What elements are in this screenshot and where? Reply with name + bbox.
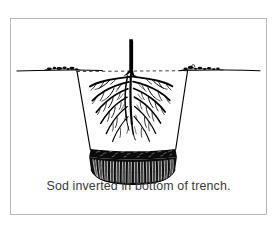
figure-root: Sod inverted in bottom of trench. [0, 0, 277, 228]
surface-clumps-left [45, 66, 81, 70]
ground-line-right [180, 70, 260, 71]
trench-walls [77, 70, 188, 149]
figure-frame: Sod inverted in bottom of trench. [10, 18, 267, 215]
figure-caption: Sod inverted in bottom of trench. [11, 179, 266, 193]
ground-line-left [17, 70, 102, 71]
sod-soil-band [89, 149, 177, 159]
surface-clumps-right [182, 65, 224, 70]
root-system [90, 75, 172, 142]
